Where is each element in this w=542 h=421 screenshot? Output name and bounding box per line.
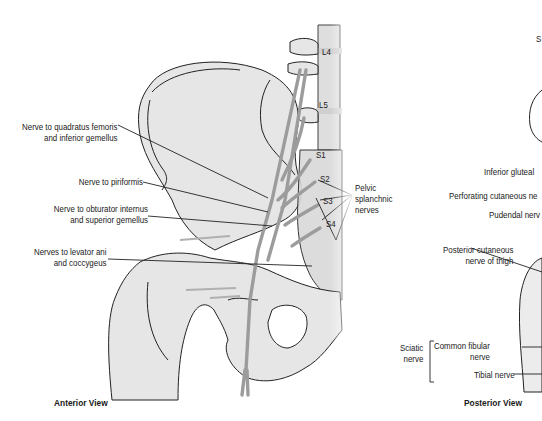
label-line: nerve [434, 352, 490, 363]
label-line: nerve [400, 354, 423, 365]
label-posterior-cutaneous-nerve: Posterior cutaneous nerve of thigh [443, 245, 513, 267]
label-line: nerves [355, 205, 392, 216]
thigh [519, 258, 542, 392]
label-line: Nerve to obturator internus [54, 204, 148, 215]
label-line: Nerve to piriformis [79, 177, 143, 188]
vertebra-label-s4: S4 [326, 219, 336, 230]
label-line: Nerves to levator ani [34, 247, 107, 258]
label-inferior-gluteal: Inferior gluteal [484, 167, 534, 178]
label-nerve-quadratus-femoris: Nerve to quadratus femoris and inferior … [22, 122, 118, 144]
posterior-top-label: S [536, 34, 541, 45]
label-nerves-levator-ani: Nerves to levator ani and coccygeus [34, 247, 107, 269]
label-line: and coccygeus [34, 258, 107, 269]
label-line: Sciatic [400, 343, 423, 354]
vertebra-label-s2: S2 [320, 174, 330, 185]
nerve-ends [242, 370, 248, 395]
posterior-view-title: Posterior View [464, 397, 522, 408]
label-line: and superior gemellus [54, 215, 148, 226]
vertebra-label-l4: L4 [322, 47, 331, 58]
label-nerve-piriformis: Nerve to piriformis [79, 177, 143, 188]
anterior-view-title: Anterior View [54, 397, 108, 408]
label-line: splanchnic [355, 194, 392, 205]
label-sciatic-nerve: Sciatic nerve [400, 343, 423, 365]
label-common-fibular-nerve: Common fibular nerve [434, 341, 490, 363]
label-pudendal-nerve: Pudendal nerv [489, 210, 540, 221]
label-line: Pelvic [355, 183, 392, 194]
label-tibial-nerve: Tibial nerve [474, 370, 515, 381]
vertebra-label-s1: S1 [316, 150, 326, 161]
label-line: Common fibular [434, 341, 490, 352]
label-nerve-obturator-internus: Nerve to obturator internus and superior… [54, 204, 148, 226]
label-line: nerve of thigh [443, 256, 513, 267]
label-pelvic-splanchnic-nerves: Pelvic splanchnic nerves [355, 183, 392, 216]
label-line: and inferior gemellus [22, 133, 118, 144]
label-perforating-cutaneous: Perforating cutaneous ne [449, 191, 538, 202]
label-line: Posterior cutaneous [443, 245, 513, 256]
vertebra-label-l5: L5 [319, 100, 328, 111]
edge-fade [330, 20, 355, 340]
label-line: Nerve to quadratus femoris [22, 122, 118, 133]
vertebra-label-s3: S3 [323, 196, 333, 207]
l4-process [288, 62, 318, 75]
l4-transverse [290, 38, 318, 55]
gluteal-outline [530, 90, 542, 142]
